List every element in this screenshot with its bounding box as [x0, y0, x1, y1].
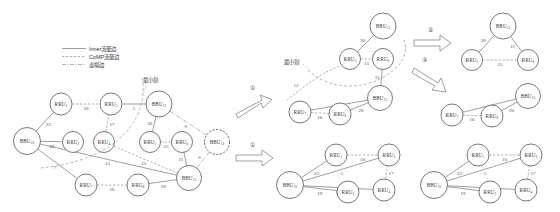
subgraph-mid-upper: 30151171620BBU11RRU5RRU6BBU13RRU7RRU8 [289, 13, 396, 125]
edge-weight-rru1-rru3: 10 [360, 157, 366, 162]
min-cut-leader-main [142, 86, 146, 96]
edge-weight-rru4-rru3: 17 [388, 171, 394, 176]
edge-weight-rru7-rru8: 16 [317, 115, 323, 120]
edge-weight-rru1-rru3: 10 [502, 157, 508, 162]
arrow-shape-3 [412, 68, 446, 92]
legend-label-0: Inner流量边 [89, 45, 117, 53]
edge-weight-bbu11-rru6: 11 [510, 44, 515, 49]
arrow-shape-2 [414, 35, 451, 51]
main-graph: 2310195173015∞11∞716201212BBU10RRU1RRU2R… [14, 91, 230, 196]
edge-weight-rru1-rru3: 10 [84, 106, 90, 111]
min-cut-curve [40, 78, 143, 168]
edge-weight-bbu10-rru1: 23 [314, 171, 320, 176]
min-cut-leader-mid [303, 64, 310, 70]
legend-label-1: CoMP流量边 [89, 53, 120, 61]
arrow-shape-1b [236, 150, 273, 166]
edge-weight-bbu10-rru1: 23 [46, 122, 52, 127]
edge-weight-rru4-bbu13: 12 [141, 161, 147, 166]
min-cut-label-main: 最小割 [143, 76, 158, 84]
edge-weight-bbu10-rru2: 19 [317, 191, 323, 196]
edge-weight-rru7-rru8: 16 [469, 117, 475, 122]
edge-weight-bbu10-rru1: 23 [457, 171, 463, 176]
edge-weight-bbu10-rru3: 5 [484, 171, 487, 176]
step-arrow-1b: ① [236, 142, 273, 166]
arrow-shape-1 [236, 95, 272, 118]
step-label-1b: ① [250, 142, 255, 148]
step-arrow-1: ① [236, 85, 272, 118]
edge-weight-rru8-bbu13: 20 [358, 108, 364, 113]
legend-label-2: 虚拟边 [89, 61, 105, 69]
edge-weight-rru8-bbu13: 20 [509, 108, 515, 113]
edge-rru4-rru3 [528, 166, 530, 179]
step-label-2: ② [428, 27, 433, 33]
edge-weight-rru3-bbu11: 5 [133, 106, 136, 111]
subgraph-bottom-mid: 23105121917BBU10RRU1RRU3RRU2RRU4 [277, 144, 401, 203]
subgraph-top-right: 301115BBU11RRU5RRU6 [462, 13, 539, 71]
edge-weight-rru5-rru6: 15 [364, 61, 370, 66]
edge-weight-bbu10-bbu13: 12 [105, 161, 111, 166]
edge-rru6-bbu13 [381, 69, 382, 85]
step-arrow-2: ② [414, 27, 451, 51]
step-label-3: ③ [422, 57, 427, 63]
edge-weight-rru5-rru6: 15 [164, 144, 170, 149]
edge-weight-bbu10-rru3: 5 [341, 171, 344, 176]
edge-rru7-rru8 [311, 113, 329, 114]
subgraph-bottom-right: 23105121917BBU10RRU1RRU3RRU2RRU4 [421, 144, 543, 203]
edge-weight-bbu10-rru2: 19 [460, 191, 466, 196]
edge-weight-rru8-bbu13: 20 [161, 184, 167, 189]
edge-weight-rru4-rru3: 17 [530, 171, 536, 176]
min-cut-label-mid: 最小割 [284, 58, 299, 66]
edge-weight-bbu12-bbu13: ∞ [198, 155, 202, 160]
legend: Inner流量边 CoMP流量边 虚拟边 [62, 45, 120, 69]
subgraph-mid-right: 71620BBU13RRU7RRU8 [441, 84, 541, 128]
edge-rru4-rru3 [386, 166, 388, 179]
edge-weight-bbu11-bbu12: ∞ [184, 124, 188, 129]
main-min-cut: 最小割 [40, 76, 158, 168]
edge-weight-bbu11-rru5: 30 [481, 38, 487, 43]
edge-weight-bbu11-rru5: 30 [360, 38, 366, 43]
edge-rru6-bbu13 [184, 152, 187, 165]
edge-weight-rru6-bbu13: 11 [178, 157, 183, 162]
edge-weight-extra-12: 12 [294, 83, 300, 88]
edge-weight-bbu11-rru5: 30 [147, 121, 153, 126]
edge-weight-bbu10-rru7: 7 [54, 165, 57, 170]
step-arrow-3: ③ [412, 57, 446, 92]
figure-canvas: Inner流量边 CoMP流量边 虚拟边 2310195173015∞11∞71… [0, 0, 560, 212]
edge-bbu11-bbu12 [170, 111, 207, 135]
edge-weight-rru5-rru6: 15 [498, 62, 504, 67]
network-decomposition-figure: Inner流量边 CoMP流量边 虚拟边 2310195173015∞11∞71… [0, 0, 560, 212]
edge-bbu11-rru5 [152, 117, 156, 132]
edge-weight-rru7-rru8: 16 [110, 187, 116, 192]
edge-bbu10-rru7 [38, 149, 77, 178]
step-label-1: ① [250, 85, 255, 91]
edge-weight-rru4-rru3: 17 [109, 122, 115, 127]
